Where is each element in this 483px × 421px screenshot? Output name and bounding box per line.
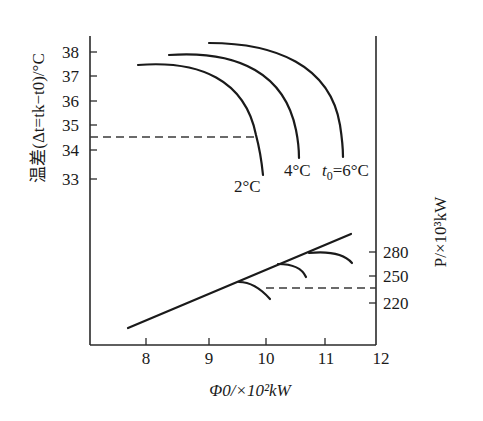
curve-label-6: t0=6°C: [322, 161, 369, 183]
chart: 38 37 36 35 34 33 温差(Δt=tk−t0)/°C 8 9 10…: [0, 0, 483, 421]
bottom-tick-labels: 8 9 10 11 12: [142, 349, 390, 368]
bottom-ticks: [146, 338, 325, 345]
y-left-tick: 37: [62, 67, 80, 86]
y-left-axis-title: 温差(Δt=tk−t0)/°C: [29, 53, 48, 182]
left-tick-labels: 38 37 36 35 34 33: [62, 43, 80, 189]
left-ticks: [90, 52, 97, 179]
x-tick: 9: [205, 349, 214, 368]
y-left-tick: 36: [62, 92, 79, 111]
right-tick-labels: 280 250 220: [383, 243, 409, 313]
y-left-tick: 38: [62, 43, 79, 62]
x-tick: 10: [258, 349, 275, 368]
upper-curves: [138, 43, 343, 175]
curve-t0-2: [138, 64, 263, 175]
right-ticks: [369, 252, 376, 303]
x-tick: 8: [142, 349, 151, 368]
lower-curves: [128, 234, 352, 328]
axes: [90, 36, 376, 345]
power-curve-2: [239, 282, 270, 299]
y-right-axis-title: P/×10³kW: [431, 196, 450, 267]
x-tick: 12: [373, 349, 390, 368]
y-left-tick: 33: [62, 170, 79, 189]
x-tick: 11: [318, 349, 334, 368]
curve-t0-4: [169, 54, 299, 158]
power-curve-6: [309, 252, 352, 263]
x-axis-title: Φ0/×10²kW: [209, 381, 292, 400]
curve-label-4: 4°C: [284, 161, 311, 180]
y-right-tick: 280: [383, 243, 409, 262]
y-left-tick: 35: [62, 116, 79, 135]
curve-label-2: 2°C: [234, 177, 261, 196]
y-left-tick: 34: [62, 141, 80, 160]
y-right-tick: 250: [383, 267, 409, 286]
y-right-tick: 220: [383, 294, 409, 313]
power-curve-4: [278, 264, 306, 277]
